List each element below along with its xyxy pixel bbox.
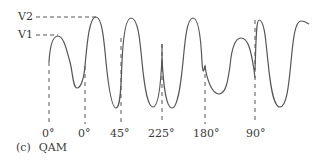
caption-title: QAM [39,141,67,154]
qam-waveform [49,17,309,108]
figure-caption: (c)QAM [16,142,67,154]
phase-label-5: 180° [193,128,220,140]
amplitude-label-v2: V2 [18,11,33,23]
caption-tag: (c) [16,141,31,154]
phase-label-1: 0° [42,128,55,140]
phase-label-3: 45° [110,128,130,140]
amplitude-label-v1: V1 [18,29,33,41]
qam-waveform-figure: V2 V1 0° 0° 45° 225° 180° 90° (c)QAM [0,0,321,161]
phase-label-6: 90° [246,128,266,140]
phase-label-4: 225° [148,128,175,140]
phase-label-2: 0° [78,128,91,140]
